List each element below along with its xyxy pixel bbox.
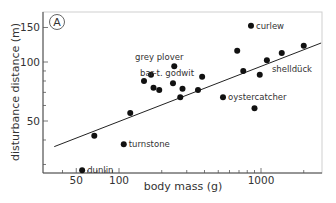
point-label: grey plover: [135, 52, 184, 62]
data-point: [301, 43, 307, 49]
panel-label: A: [50, 15, 65, 30]
point-label: turnstone: [129, 139, 170, 149]
data-point: [252, 105, 258, 111]
scatter-chart: 501001000 50100150 body mass (g) disturb…: [0, 0, 336, 203]
point-label: oystercatcher: [228, 92, 287, 102]
x-tick-label: 50: [70, 174, 83, 186]
data-points: dunlinturnstonegrey ploverbar-t. godwito…: [79, 21, 312, 176]
data-point: [127, 110, 133, 116]
y-axis-title: disturbance distance (m): [9, 23, 22, 161]
y-tick-label: 150: [20, 21, 40, 33]
y-tick-label: 50: [27, 115, 40, 127]
data-point: [234, 48, 240, 54]
y-tick-label: 100: [20, 56, 40, 68]
x-axis-title: body mass (g): [144, 180, 223, 193]
point-label: shelldück: [272, 64, 312, 74]
point-label: curlew: [256, 21, 284, 31]
data-point: [220, 94, 226, 100]
x-tick-label: 100: [109, 174, 129, 186]
data-point: [79, 167, 85, 173]
data-point: [141, 78, 147, 84]
data-point: [264, 57, 270, 63]
panel-letter: A: [53, 16, 61, 29]
data-point: [91, 133, 97, 139]
data-point: [279, 50, 285, 56]
data-point: [240, 68, 246, 74]
data-point: [195, 87, 201, 93]
data-point: [179, 86, 185, 92]
data-point: [151, 85, 157, 91]
point-label: bar-t. godwit: [140, 68, 195, 78]
y-axis-ticks: 50100150: [20, 21, 48, 164]
data-point: [257, 72, 263, 78]
data-point: [177, 94, 183, 100]
data-point: [156, 87, 162, 93]
point-label: dunlin: [87, 165, 113, 175]
x-tick-label: 1000: [248, 174, 275, 186]
data-point: [170, 80, 176, 86]
data-point: [199, 74, 205, 80]
data-point: [248, 23, 254, 29]
data-point: [121, 141, 127, 147]
